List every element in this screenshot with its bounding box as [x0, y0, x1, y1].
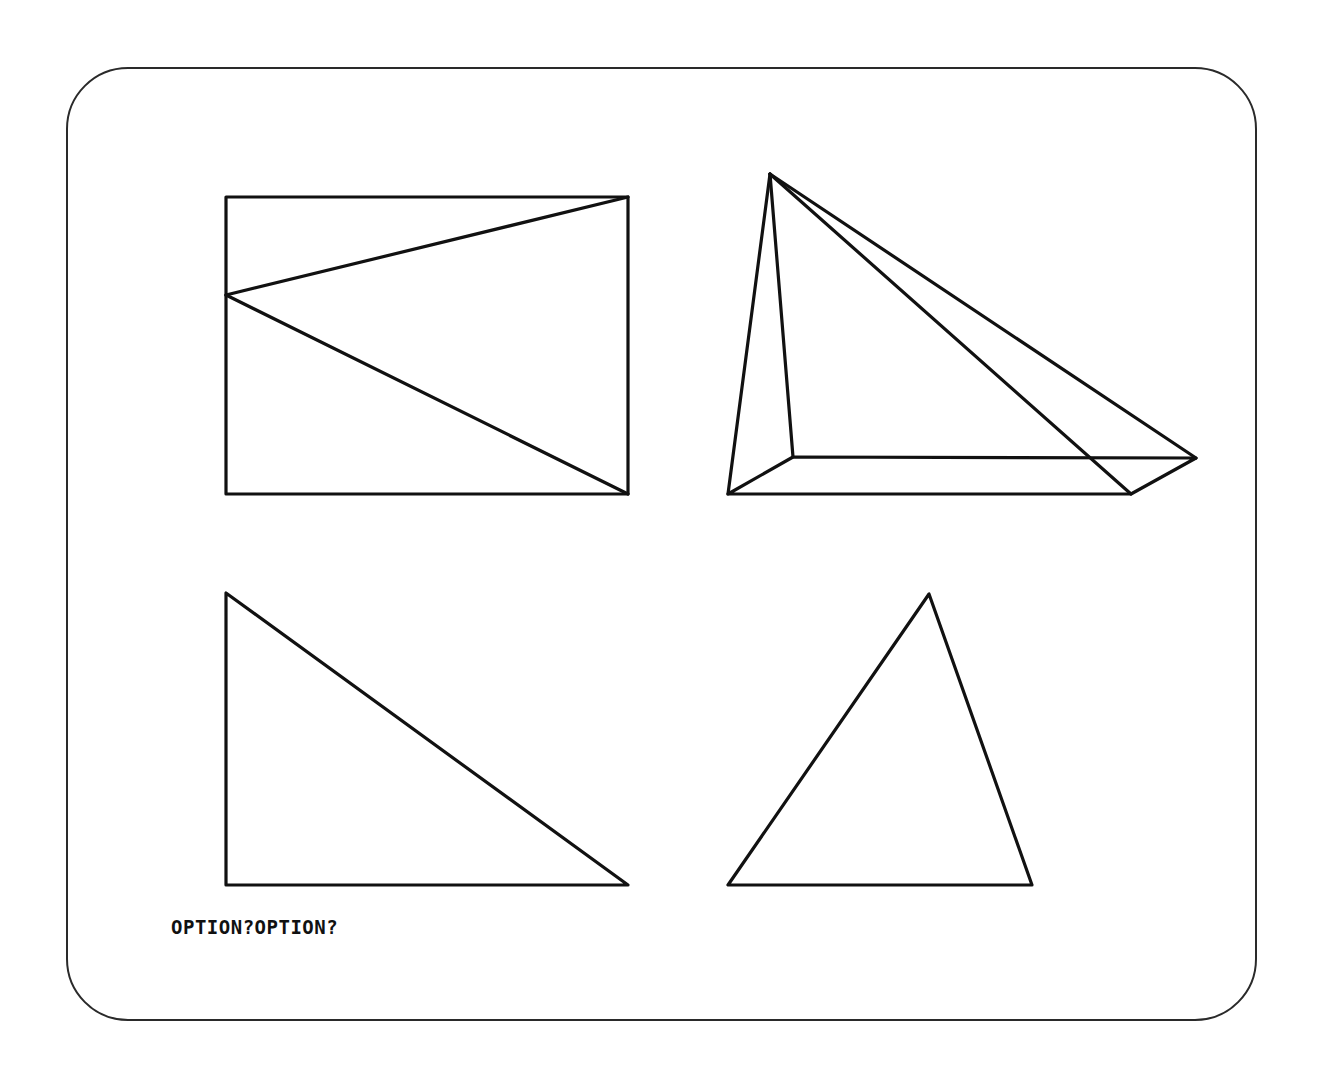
scalene-triangle-figure: [728, 594, 1032, 885]
pyramid-edge-front-right: [770, 174, 1131, 494]
pyramid-edge-front-left: [728, 174, 770, 494]
pyramid-edge-back-right: [770, 174, 1196, 458]
option-prompt: OPTION?OPTION?: [171, 916, 338, 938]
right-triangle-figure: [226, 593, 628, 885]
rectangle-upper-diagonal: [226, 197, 628, 295]
rectangle-outline: [226, 197, 628, 494]
geometry-drawing: [0, 0, 1324, 1072]
rectangle-lower-diagonal: [226, 295, 628, 494]
pyramid-edge-back-left: [770, 174, 793, 457]
rectangle-with-triangle-figure: [226, 197, 628, 494]
pyramid-figure: [728, 174, 1196, 494]
